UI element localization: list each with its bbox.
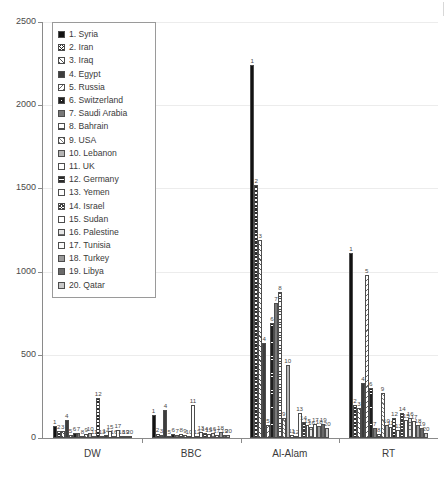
bar-group-bbc: 1234567891011121314151617181920	[152, 22, 231, 438]
group-separator	[241, 438, 242, 443]
legend-label: 10. Lebanon	[69, 149, 117, 158]
legend-item[interactable]: 5. Russia	[58, 81, 149, 94]
y-axis-tick	[38, 272, 42, 273]
legend-item[interactable]: 18. Turkey	[58, 252, 149, 265]
y-axis-tick	[38, 355, 42, 356]
legend-swatch-icon	[58, 123, 65, 130]
bar-value-label: 20	[422, 426, 429, 433]
y-axis-tick	[38, 188, 42, 189]
legend-label: 15. Sudan	[69, 215, 108, 224]
legend-item[interactable]: 4. Egypt	[58, 68, 149, 81]
bar-value-label: 20	[126, 429, 133, 436]
legend-swatch-icon	[58, 203, 65, 210]
legend-swatch-icon	[58, 97, 65, 104]
x-axis-label-dw: DW	[43, 448, 142, 459]
bar-slot[interactable]: 20	[226, 22, 230, 438]
group-separator	[142, 438, 143, 443]
legend-item[interactable]: 16. Palestine	[58, 226, 149, 239]
legend-item[interactable]: 19. Libya	[58, 265, 149, 278]
y-axis-tick-label: 1500	[0, 183, 36, 192]
legend-label: 11. UK	[69, 162, 95, 171]
legend-swatch-icon	[58, 57, 65, 64]
legend-label: 9. USA	[69, 136, 96, 145]
x-axis-label-bbc: BBC	[142, 448, 241, 459]
legend-swatch-icon	[58, 150, 65, 157]
legend-swatch-icon	[58, 229, 65, 236]
legend-label: 12. Germany	[69, 175, 119, 184]
legend-swatch-icon	[58, 44, 65, 51]
y-axis-tick	[38, 105, 42, 106]
legend-item[interactable]: 6. Switzerland	[58, 94, 149, 107]
legend-swatch-icon	[58, 176, 65, 183]
legend-item[interactable]: 8. Bahrain	[58, 120, 149, 133]
legend-swatch-icon	[58, 137, 65, 144]
legend-label: 7. Saudi Arabia	[69, 109, 127, 118]
legend-label: 6. Switzerland	[69, 96, 123, 105]
legend-item[interactable]: 13. Yemen	[58, 186, 149, 199]
legend-label: 5. Russia	[69, 83, 105, 92]
bar-slot[interactable]: 20	[424, 22, 428, 438]
legend-label: 20. Qatar	[69, 281, 105, 290]
bar-value-label: 20	[225, 428, 232, 435]
legend-label: 19. Libya	[69, 267, 104, 276]
legend-label: 2. Iran	[69, 43, 93, 52]
bar[interactable]	[226, 435, 230, 438]
legend-swatch-icon	[58, 110, 65, 117]
legend-item[interactable]: 11. UK	[58, 160, 149, 173]
corner-mark	[443, 2, 444, 16]
bar-group-rt: 1234567891011121314151617181920	[349, 22, 428, 438]
legend-swatch-icon	[58, 255, 65, 262]
legend-swatch-icon	[58, 163, 65, 170]
legend-item[interactable]: 20. Qatar	[58, 279, 149, 292]
bar[interactable]	[424, 433, 428, 438]
bar-value-label: 20	[324, 421, 331, 428]
y-axis-tick-label: 500	[0, 350, 36, 359]
bar-group-al-alam: 1234567891011121314151617181920	[250, 22, 329, 438]
legend-swatch-icon	[58, 216, 65, 223]
bar-chart: 05001000150020002500 1234567891011121314…	[0, 0, 445, 482]
legend-item[interactable]: 12. Germany	[58, 173, 149, 186]
legend-swatch-icon	[58, 282, 65, 289]
legend-item[interactable]: 1. Syria	[58, 28, 149, 41]
x-axis-label-al-alam: Al-Alam	[241, 448, 340, 459]
y-axis-tick-label: 2000	[0, 100, 36, 109]
legend-label: 16. Palestine	[69, 228, 119, 237]
legend-item[interactable]: 3. Iraq	[58, 54, 149, 67]
legend-item[interactable]: 17. Tunisia	[58, 239, 149, 252]
legend-item[interactable]: 2. Iran	[58, 41, 149, 54]
bar[interactable]	[128, 436, 132, 438]
legend-swatch-icon	[58, 31, 65, 38]
legend-label: 1. Syria	[69, 30, 98, 39]
legend-label: 4. Egypt	[69, 70, 101, 79]
legend-item[interactable]: 9. USA	[58, 134, 149, 147]
x-axis-label-rt: RT	[339, 448, 438, 459]
y-axis-tick	[38, 22, 42, 23]
legend-item[interactable]: 15. Sudan	[58, 213, 149, 226]
legend-item[interactable]: 7. Saudi Arabia	[58, 107, 149, 120]
legend-item[interactable]: 14. Israel	[58, 199, 149, 212]
legend-label: 17. Tunisia	[69, 241, 111, 250]
y-axis-tick	[38, 438, 42, 439]
y-axis-tick-label: 1000	[0, 267, 36, 276]
legend-swatch-icon	[58, 189, 65, 196]
y-axis-tick-label: 2500	[0, 17, 36, 26]
legend-swatch-icon	[58, 71, 65, 78]
bar[interactable]	[325, 428, 329, 438]
legend-label: 14. Israel	[69, 202, 104, 211]
legend-swatch-icon	[58, 242, 65, 249]
legend-swatch-icon	[58, 268, 65, 275]
legend: 1. Syria2. Iran3. Iraq4. Egypt5. Russia6…	[52, 22, 156, 298]
legend-label: 13. Yemen	[69, 188, 110, 197]
bar-slot[interactable]: 20	[325, 22, 329, 438]
legend-label: 18. Turkey	[69, 254, 109, 263]
legend-label: 3. Iraq	[69, 56, 93, 65]
y-axis-tick-label: 0	[0, 433, 36, 442]
legend-label: 8. Bahrain	[69, 122, 108, 131]
legend-swatch-icon	[58, 84, 65, 91]
legend-item[interactable]: 10. Lebanon	[58, 147, 149, 160]
group-separator	[339, 438, 340, 443]
